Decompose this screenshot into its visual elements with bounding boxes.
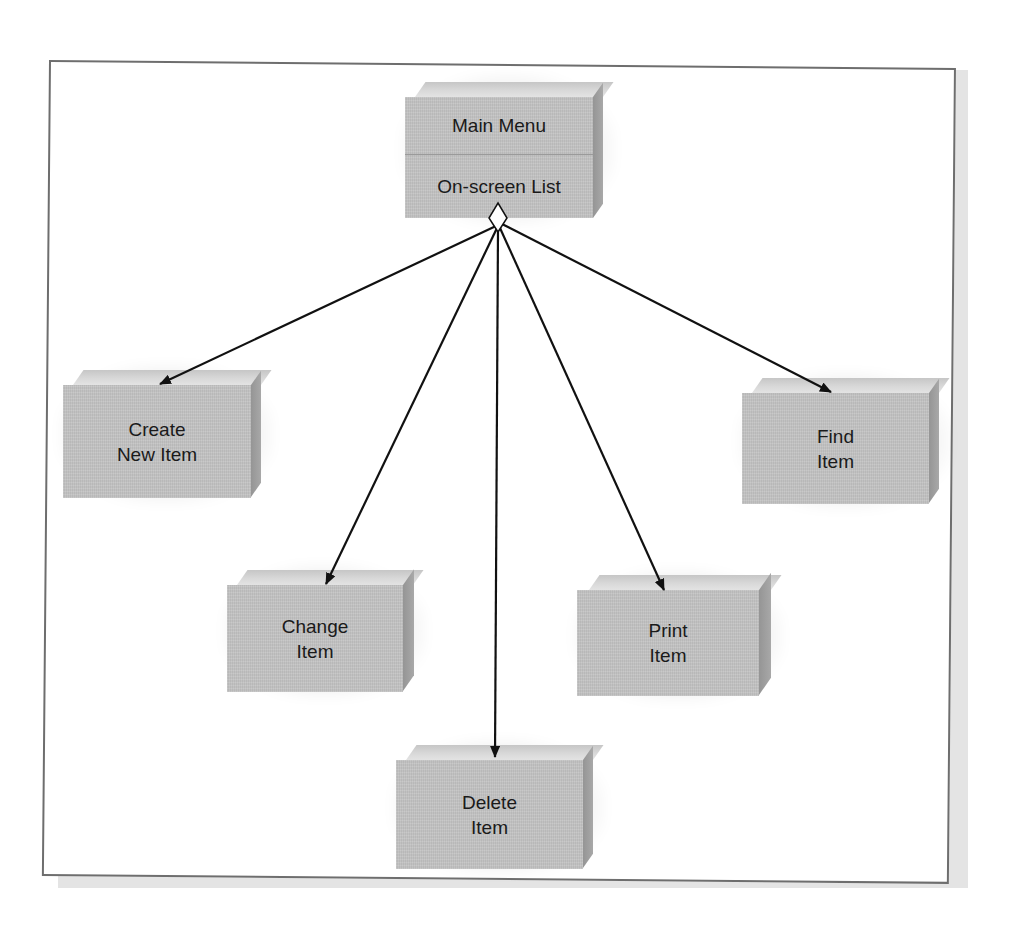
create-new-item-label-line-1: Create <box>128 417 185 442</box>
on-screen-list-label: On-screen List <box>437 174 561 199</box>
change-item-front: Change Item <box>227 585 403 692</box>
create-new-item-front: Create New Item <box>63 385 251 498</box>
box-side-face <box>403 569 414 691</box>
find-item-label-line-2: Item <box>817 449 854 474</box>
create-new-item-box: Create New Item <box>63 370 261 498</box>
box-side-face <box>929 379 939 503</box>
box-side-face <box>759 573 771 695</box>
delete-item-front: Delete Item <box>396 760 583 869</box>
print-item-front: Print Item <box>577 590 759 696</box>
delete-item-box: Delete Item <box>396 745 593 869</box>
box-side-face <box>251 371 261 497</box>
find-item-front: Find Item <box>742 393 929 504</box>
delete-item-label-line-1: Delete <box>462 790 517 815</box>
main-menu-front: Main Menu On-screen List <box>405 97 593 218</box>
print-item-label-line-1: Print <box>648 618 687 643</box>
delete-item-label-line-2: Item <box>471 815 508 840</box>
change-item-label-line-1: Change <box>282 614 349 639</box>
box-top-face <box>406 745 604 760</box>
main-menu-title-section: Main Menu <box>405 97 593 155</box>
change-item-label-line-2: Item <box>297 639 334 664</box>
box-top-face <box>415 82 614 97</box>
find-item-box: Find Item <box>742 378 939 504</box>
box-side-face <box>583 746 593 868</box>
print-item-label-line-2: Item <box>650 643 687 668</box>
box-side-face <box>593 83 603 218</box>
box-top-face <box>73 370 272 385</box>
change-item-box: Change Item <box>227 570 414 692</box>
box-top-face <box>237 570 424 585</box>
print-item-box: Print Item <box>577 575 771 696</box>
box-top-face <box>589 575 782 590</box>
main-menu-box: Main Menu On-screen List <box>405 80 603 219</box>
on-screen-list-section: On-screen List <box>405 155 593 217</box>
find-item-label-line-1: Find <box>817 424 854 449</box>
box-top-face <box>752 378 950 393</box>
create-new-item-label-line-2: New Item <box>117 442 197 467</box>
main-menu-label: Main Menu <box>452 113 546 138</box>
